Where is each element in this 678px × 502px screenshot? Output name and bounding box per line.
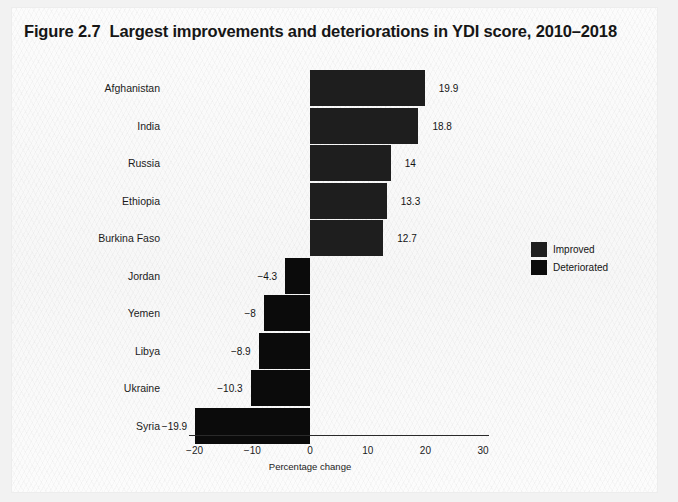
category-label: Ukraine <box>10 382 160 394</box>
bar-burkina-faso[interactable] <box>310 220 383 256</box>
bar-afghanistan[interactable] <box>310 70 425 106</box>
category-label: Burkina Faso <box>10 232 160 244</box>
legend-item-improved[interactable]: Improved <box>531 240 608 258</box>
bar-india[interactable] <box>310 108 418 144</box>
bar-value-label: 13.3 <box>401 195 420 206</box>
x-axis-tick-label: −20 <box>186 445 203 456</box>
x-axis-tick-label: 30 <box>478 445 489 456</box>
figure-root: Figure 2.7Largest improvements and deter… <box>0 0 678 502</box>
legend-item-deteriorated[interactable]: Deteriorated <box>531 258 608 276</box>
x-axis-title: Percentage change <box>269 461 351 472</box>
bar-russia[interactable] <box>310 145 391 181</box>
legend-swatch-deteriorated <box>531 260 547 275</box>
legend-label-deteriorated: Deteriorated <box>553 262 608 273</box>
bar-value-label: −4.3 <box>233 270 277 281</box>
category-label: Syria <box>10 420 160 432</box>
x-axis-tick-label: 0 <box>307 445 313 456</box>
bar-value-label: 19.9 <box>439 83 458 94</box>
bar-value-label: −8.9 <box>207 345 251 356</box>
x-axis-tick-label: 10 <box>362 445 373 456</box>
chart-legend: Improved Deteriorated <box>531 240 608 276</box>
bar-value-label: −10.3 <box>199 383 243 394</box>
bar-yemen[interactable] <box>264 295 310 331</box>
bar-jordan[interactable] <box>285 258 310 294</box>
category-label: Yemen <box>10 307 160 319</box>
category-label: India <box>10 120 160 132</box>
category-label: Libya <box>10 345 160 357</box>
category-label: Afghanistan <box>10 82 160 94</box>
x-axis-tick-label: 20 <box>420 445 431 456</box>
x-axis-line <box>189 435 490 436</box>
legend-swatch-improved <box>531 242 547 257</box>
bar-value-label: 14 <box>405 158 416 169</box>
bar-ukraine[interactable] <box>251 370 310 406</box>
bar-syria[interactable] <box>195 408 310 444</box>
legend-label-improved: Improved <box>553 244 595 255</box>
category-label: Russia <box>10 157 160 169</box>
bar-ethiopia[interactable] <box>310 183 387 219</box>
category-label: Jordan <box>10 270 160 282</box>
bar-value-label: −8 <box>212 308 256 319</box>
category-label: Ethiopia <box>10 195 160 207</box>
bar-value-label: −19.9 <box>143 420 187 431</box>
x-axis-tick-label: −10 <box>244 445 261 456</box>
bar-value-label: 12.7 <box>397 233 416 244</box>
bar-value-label: 18.8 <box>432 120 451 131</box>
bar-libya[interactable] <box>259 333 310 369</box>
